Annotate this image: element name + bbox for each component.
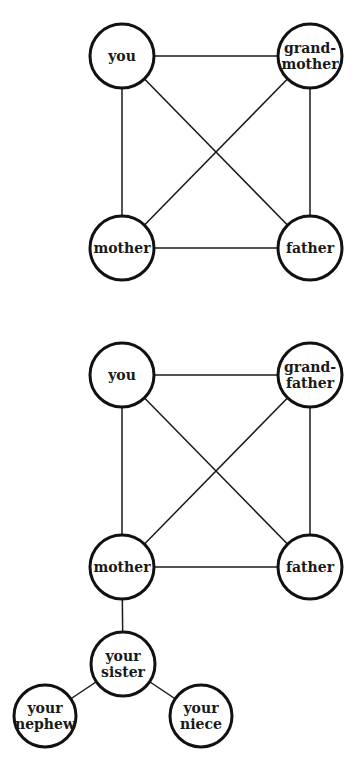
node-label: you (107, 367, 136, 383)
edges-layer (45, 56, 310, 716)
node-mother: mother (90, 535, 154, 599)
node-father: father (278, 216, 342, 280)
node-label: you (107, 48, 136, 64)
family-graph-grandfather-edges (45, 375, 310, 716)
node-you: you (90, 343, 154, 407)
family-graph-grandfather: yougrand-fathermotherfatheryoursisteryou… (14, 343, 342, 747)
node-label: niece (180, 716, 222, 732)
node-nephew: yournephew (14, 685, 76, 747)
family-graphs: yougrand-mothermotherfatheryougrand-fath… (0, 0, 362, 772)
node-label: your (104, 648, 141, 664)
node-label: mother (93, 240, 151, 256)
node-mother: mother (90, 216, 154, 280)
family-graph-grandmother-edges (122, 56, 310, 248)
node-label: mother (281, 56, 339, 72)
node-label: sister (101, 664, 145, 680)
node-grandfather: grand-father (278, 343, 342, 407)
node-label: grand- (284, 40, 336, 56)
node-label: your (182, 700, 219, 716)
nodes-layer: yougrand-mothermotherfatheryougrand-fath… (14, 24, 342, 747)
node-niece: yourniece (170, 685, 232, 747)
node-label: grand- (284, 359, 336, 375)
node-father: father (278, 535, 342, 599)
node-label: father (286, 375, 335, 391)
node-label: father (286, 240, 335, 256)
node-label: your (26, 700, 63, 716)
node-label: mother (93, 559, 151, 575)
node-label: father (286, 559, 335, 575)
node-you: you (90, 24, 154, 88)
node-grandmother: grand-mother (278, 24, 342, 88)
node-label: nephew (15, 716, 76, 732)
node-sister: yoursister (91, 632, 155, 696)
